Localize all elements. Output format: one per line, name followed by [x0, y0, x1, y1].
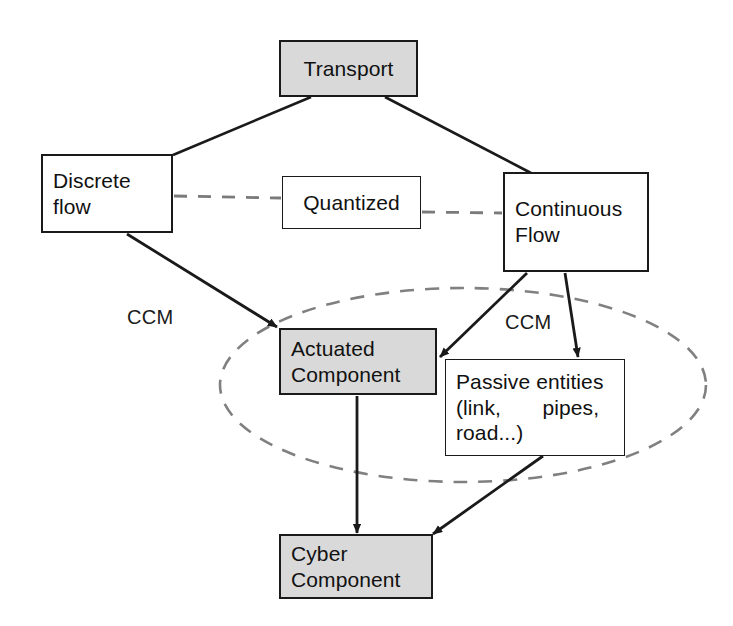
node-discrete-flow-line-1: flow: [53, 194, 91, 220]
node-cyber-component-line-0: Cyber: [291, 541, 348, 567]
edge-passive-entities-to-cyber-component: [433, 456, 543, 534]
node-continuous-flow-line-0: Continuous: [515, 196, 622, 222]
node-passive-entities[interactable]: Passive entities (link, pipes, road...): [445, 359, 625, 456]
edge-label-ccm-right: CCM: [505, 311, 551, 334]
diagram-canvas: Transport Discrete flow Quantized Contin…: [0, 0, 733, 626]
edge-label-ccm-left: CCM: [127, 306, 173, 329]
node-actuated-component[interactable]: Actuated Component: [279, 328, 437, 395]
node-continuous-flow[interactable]: Continuous Flow: [503, 172, 649, 272]
node-discrete-flow[interactable]: Discrete flow: [41, 154, 173, 233]
edge-transport-to-continuous-flow: [385, 97, 531, 173]
edge-transport-to-discrete-flow: [173, 97, 311, 155]
node-quantized-line-0: Quantized: [303, 190, 400, 216]
node-cyber-component[interactable]: Cyber Component: [279, 534, 433, 599]
node-transport[interactable]: Transport: [279, 40, 418, 97]
node-continuous-flow-line-1: Flow: [515, 222, 560, 248]
node-quantized[interactable]: Quantized: [282, 176, 421, 229]
edge-continuous-flow-to-passive-entities: [565, 273, 578, 357]
node-passive-entities-line-0: Passive entities: [456, 369, 604, 395]
node-cyber-component-line-1: Component: [291, 567, 400, 593]
node-transport-line-0: Transport: [304, 56, 394, 82]
node-passive-entities-line-1: (link, pipes,: [456, 395, 599, 421]
node-discrete-flow-line-0: Discrete: [53, 168, 131, 194]
node-passive-entities-line-2: road...): [456, 420, 523, 446]
edge-discrete-flow-to-quantized: [174, 196, 281, 198]
edge-quantized-to-continuous-flow: [422, 212, 502, 213]
node-actuated-component-line-0: Actuated: [291, 336, 375, 362]
node-actuated-component-line-1: Component: [291, 362, 400, 388]
